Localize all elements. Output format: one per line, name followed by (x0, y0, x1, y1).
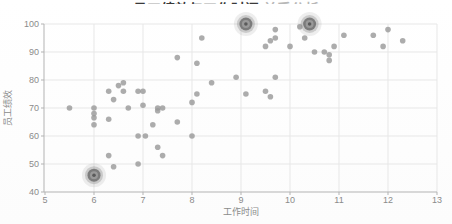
data-point (143, 133, 149, 139)
data-point (175, 119, 181, 125)
y-tick-label: 100 (24, 19, 39, 29)
x-tick-label: 12 (383, 195, 393, 205)
bubble-core (308, 22, 312, 26)
y-tick-label: 60 (29, 131, 39, 141)
data-point (189, 100, 195, 106)
data-point (91, 115, 97, 121)
data-point (106, 88, 112, 94)
data-point (380, 44, 386, 50)
data-point (126, 105, 132, 111)
data-point (194, 60, 200, 66)
data-point (135, 133, 141, 139)
y-tick-label: 70 (29, 103, 39, 113)
y-tick-label: 80 (29, 75, 39, 85)
data-point (106, 116, 112, 122)
x-tick-label: 10 (285, 195, 295, 205)
data-point (160, 105, 166, 111)
data-point (194, 91, 200, 97)
data-point (150, 122, 156, 128)
x-tick-label: 9 (238, 195, 243, 205)
data-point (302, 35, 308, 41)
data-point (155, 108, 161, 114)
x-tick-label: 13 (432, 195, 442, 205)
data-point (273, 27, 279, 33)
y-tick-label: 50 (29, 159, 39, 169)
data-point (175, 55, 181, 61)
x-tick-label: 6 (91, 195, 96, 205)
data-point (116, 83, 122, 89)
data-point (268, 38, 274, 44)
data-point (312, 49, 318, 55)
data-point (233, 74, 239, 80)
bubble-core (244, 22, 248, 26)
x-tick-label: 8 (189, 195, 194, 205)
data-point (326, 52, 332, 58)
data-point (91, 122, 97, 128)
data-point (341, 32, 347, 38)
data-point (135, 161, 141, 167)
data-point (263, 88, 269, 94)
data-point (135, 88, 141, 94)
x-axis-title: 工作时间 (223, 206, 259, 217)
y-tick-label: 90 (29, 47, 39, 57)
data-point (273, 74, 279, 80)
data-point (371, 32, 377, 38)
data-point (91, 105, 97, 111)
data-point (331, 44, 337, 50)
data-point (160, 153, 166, 159)
x-tick-label: 11 (334, 195, 343, 205)
data-point (326, 58, 332, 64)
data-point (400, 38, 406, 44)
data-point (121, 88, 127, 94)
y-tick-label: 40 (29, 187, 39, 197)
data-point (140, 88, 146, 94)
data-point (189, 133, 195, 139)
data-point (67, 105, 73, 111)
data-point (111, 97, 117, 103)
data-point (111, 164, 117, 170)
data-point (199, 35, 205, 41)
data-point (155, 144, 161, 150)
data-point (243, 91, 249, 97)
data-point (322, 49, 328, 55)
data-point (268, 94, 274, 100)
data-point (385, 27, 391, 33)
y-axis-title: 员工绩效 (2, 90, 13, 126)
data-point (140, 102, 146, 108)
bubble-core (92, 173, 96, 177)
data-point (209, 80, 215, 86)
data-point (121, 80, 127, 86)
scatter-chart-screen: 员工绩效与工作时间关系分析 40506070809010056789101112… (0, 0, 452, 224)
x-tick-label: 7 (140, 195, 145, 205)
x-tick-label: 5 (42, 195, 47, 205)
data-point (263, 44, 269, 50)
data-point (273, 35, 279, 41)
data-point (106, 153, 112, 159)
data-point (287, 44, 293, 50)
scatter-chart: 4050607080901005678910111213工作时间员工绩效 (0, 0, 452, 224)
